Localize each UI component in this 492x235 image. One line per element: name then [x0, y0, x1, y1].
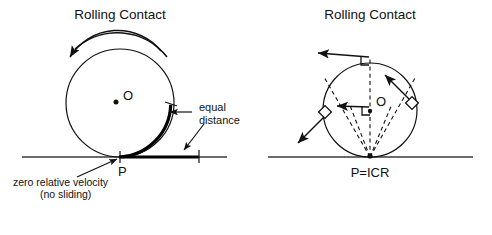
left-equal-distance-leader-ground [184, 124, 204, 150]
left-contact-label: P [118, 164, 127, 179]
left-thick-rim-arc [120, 105, 171, 157]
left-panel-title: Rolling Contact [74, 7, 166, 22]
right-velocity-vector-top [318, 53, 369, 57]
right-dashed-radius-center-right [370, 104, 392, 157]
left-wheel-circle [66, 49, 174, 157]
right-velocity-vector-center [337, 106, 369, 107]
right-velocity-vector-right-rim [385, 75, 411, 101]
left-center-label: O [123, 88, 133, 103]
figure-canvas: O P equal distance zero relative velocit… [0, 0, 492, 235]
right-contact-point-dot [367, 153, 372, 158]
left-rotation-arc-arrow [70, 30, 161, 57]
panel-right: O P=ICR Rolling Contact [268, 7, 473, 180]
panel-left: O P equal distance zero relative velocit… [13, 7, 240, 200]
left-rotation-arc-outer [75, 33, 167, 57]
right-angle-marker-left-rim [319, 106, 332, 119]
left-zero-velocity-line2: (no sliding) [40, 188, 91, 200]
right-dashed-radius-left [324, 77, 370, 157]
left-equal-distance-line1: equal [199, 101, 226, 113]
right-center-dot [368, 109, 372, 113]
left-zero-velocity-leader [77, 159, 117, 177]
left-equal-distance-line2: distance [199, 114, 240, 126]
right-dashed-radius-right [370, 78, 415, 157]
right-panel-title: Rolling Contact [324, 7, 416, 22]
right-dashed-radius-center-left [349, 103, 370, 157]
right-center-label: O [376, 94, 386, 109]
rolling-contact-figure: O P equal distance zero relative velocit… [0, 0, 492, 235]
right-contact-label: P=ICR [351, 165, 390, 180]
left-center-dot [114, 100, 119, 105]
left-zero-velocity-line1: zero relative velocity [13, 176, 109, 188]
